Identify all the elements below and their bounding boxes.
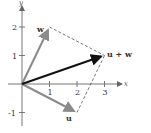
x-axis-label: x <box>124 80 128 88</box>
y-tick-neg1: -1 <box>8 109 16 118</box>
vector-diagram: 1 2 3 2 1 -1 x y w u u + w <box>0 0 151 133</box>
x-tick-3: 3 <box>103 88 108 97</box>
x-tick-1: 1 <box>48 88 53 97</box>
x-tick-2: 2 <box>75 88 80 97</box>
dashed-edge-w-to-sum <box>50 27 105 56</box>
vector-u-label: u <box>66 113 72 123</box>
y-axis-label: y <box>18 0 24 7</box>
vector-sum-label: u + w <box>107 49 133 59</box>
y-tick-2: 2 <box>12 23 17 32</box>
vector-w-label: w <box>36 24 45 34</box>
y-tick-1: 1 <box>12 52 17 61</box>
